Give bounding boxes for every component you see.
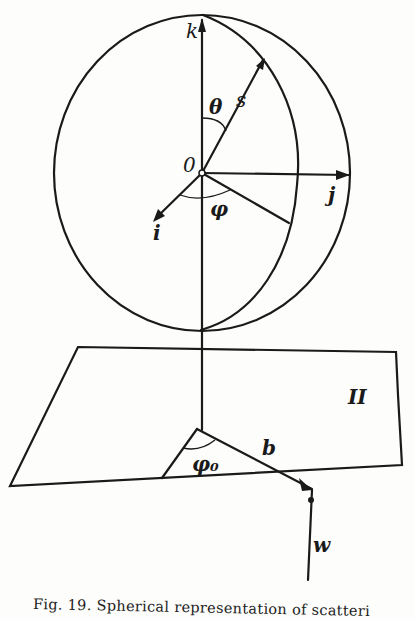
label-s: s <box>236 88 246 112</box>
label-plane: II <box>347 385 367 409</box>
j-axis <box>202 173 349 175</box>
label-k: k <box>186 19 198 43</box>
label-phi: φ <box>210 197 228 221</box>
label-phi0: φ₀ <box>192 452 219 476</box>
label-b: b <box>262 436 276 460</box>
label-theta: θ <box>209 95 223 119</box>
k-arrowhead <box>198 18 206 32</box>
i-axis <box>156 173 202 218</box>
label-w: w <box>313 533 331 557</box>
theta-arc <box>202 118 226 131</box>
w-intersection-point <box>308 497 314 503</box>
label-j: j <box>324 183 336 207</box>
origin-point <box>199 170 205 176</box>
label-i: i <box>153 221 161 245</box>
w-vector <box>308 490 312 580</box>
label-origin: 0 <box>183 153 196 177</box>
j-arrowhead <box>336 170 350 180</box>
b-arrowhead <box>299 478 312 491</box>
